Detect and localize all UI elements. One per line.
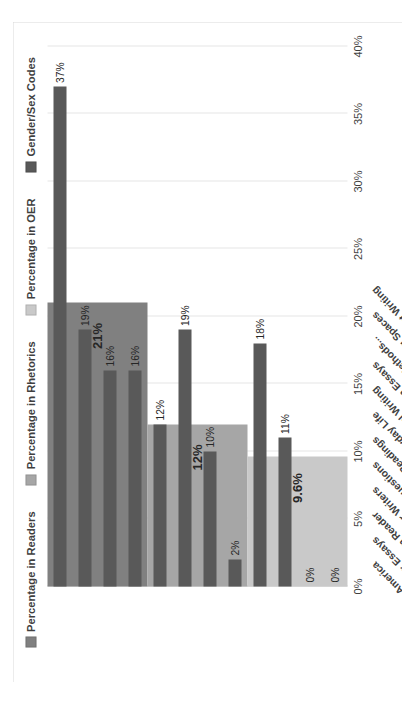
- gridline-30: [47, 180, 347, 181]
- legend-label-rhetorics: Percentage in Rhetorics: [24, 341, 36, 469]
- x-tick-label: 15%: [351, 372, 363, 394]
- bar[interactable]: [153, 424, 166, 586]
- x-tick-label: 10%: [351, 440, 363, 462]
- bar[interactable]: [228, 559, 241, 586]
- chart-legend: Percentage in Readers Percentage in Rhet…: [19, 22, 41, 682]
- chart-canvas: Percentage in Readers Percentage in Rhet…: [13, 22, 402, 682]
- bar[interactable]: [128, 370, 141, 586]
- bar-value-label: 18%: [254, 318, 265, 339]
- gridline-35: [47, 113, 347, 114]
- group-band-value-label: 21%: [90, 322, 105, 348]
- gridline-40: [47, 45, 347, 46]
- bar[interactable]: [53, 87, 66, 587]
- legend-swatch-readers: [25, 636, 36, 647]
- bar[interactable]: [178, 330, 191, 587]
- group-band-value-label: 12%: [190, 444, 205, 470]
- group-band-value-label: 9.6%: [290, 473, 305, 503]
- bar[interactable]: [78, 330, 91, 587]
- legend-item-oer[interactable]: Percentage in OER: [24, 198, 36, 315]
- legend-item-readers[interactable]: Percentage in Readers: [24, 511, 36, 648]
- bar-value-label: 11%: [279, 414, 290, 434]
- x-tick-label: 0%: [351, 578, 363, 594]
- legend-swatch-oer: [25, 304, 36, 315]
- x-tick-label: 35%: [351, 102, 363, 124]
- bar-value-label: 0%: [304, 567, 315, 582]
- legend-item-rhetorics[interactable]: Percentage in Rhetorics: [24, 341, 36, 485]
- bar-value-label: 0%: [329, 567, 340, 582]
- bar[interactable]: [203, 451, 216, 586]
- bar-value-label: 37%: [54, 62, 65, 83]
- legend-swatch-rhetorics: [25, 474, 36, 485]
- bar[interactable]: [103, 370, 116, 586]
- bar-value-label: 16%: [104, 345, 115, 366]
- category-axis-labels: Rereading AmericaSeagull Reader: EssaysL…: [369, 46, 402, 586]
- bar-value-label: 2%: [229, 540, 240, 555]
- bar-value-label: 19%: [79, 305, 90, 326]
- rotated-chart-wrapper: Percentage in Readers Percentage in Rhet…: [13, 22, 402, 682]
- bar-value-label: 16%: [129, 345, 140, 366]
- legend-label-gender-sex-codes: Gender/Sex Codes: [24, 57, 36, 156]
- x-tick-label: 25%: [351, 237, 363, 259]
- x-tick-label: 30%: [351, 170, 363, 192]
- bar[interactable]: [253, 343, 266, 586]
- legend-label-readers: Percentage in Readers: [24, 511, 36, 632]
- bar[interactable]: [278, 438, 291, 587]
- legend-swatch-gender-sex-codes: [25, 161, 36, 172]
- bar-value-label: 12%: [154, 399, 165, 420]
- bar-value-label: 10%: [204, 426, 215, 447]
- x-tick-label: 20%: [351, 305, 363, 327]
- x-tick-label: 40%: [351, 35, 363, 57]
- legend-item-gender-sex-codes[interactable]: Gender/Sex Codes: [24, 57, 36, 172]
- screenshot-root: Percentage in Readers Percentage in Rhet…: [0, 0, 415, 703]
- legend-label-oer: Percentage in OER: [24, 198, 36, 299]
- bar-value-label: 19%: [179, 305, 190, 326]
- x-tick-label: 5%: [351, 511, 363, 527]
- gridline-25: [47, 248, 347, 249]
- plot-area: 21%12%9.6% 37%19%16%16%12%19%10%2%18%11%…: [47, 46, 347, 586]
